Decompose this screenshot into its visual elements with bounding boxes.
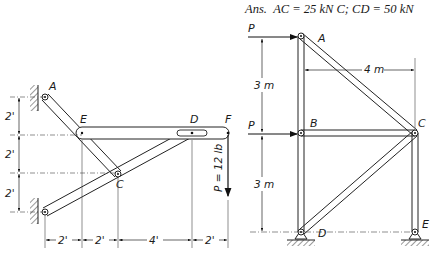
hdim-2: 2'	[95, 234, 105, 246]
load-label-P-mid: P	[248, 119, 255, 132]
joint-E-right: E	[422, 218, 429, 231]
hdim-3: 4'	[149, 234, 159, 246]
joint-C-left: C	[116, 178, 124, 191]
wall-support-bottom	[30, 198, 38, 224]
member-CE	[412, 133, 418, 232]
member-AC-right	[300, 33, 417, 135]
joint-D-left: D	[190, 113, 198, 126]
left-frame: P = 12 lb A E D F C 2' 2' 2'	[5, 80, 232, 248]
right-truss: P P 3 m 3 m 4 m A B C D E	[248, 22, 429, 246]
vdim-3: 2'	[5, 187, 15, 199]
joint-C-right: C	[418, 117, 426, 130]
load-label: P = 12 lb	[212, 144, 224, 192]
hdim-4: 2'	[205, 234, 215, 246]
joint-A-left: A	[48, 80, 57, 93]
pin-support-D	[287, 229, 315, 246]
joint-A-right: A	[317, 32, 326, 45]
pin-support-E	[401, 229, 429, 246]
member-CD	[300, 131, 417, 234]
truss-diagrams: P = 12 lb A E D F C 2' 2' 2'	[0, 0, 440, 265]
load-label-P-top: P	[248, 22, 255, 35]
joint-E: E	[80, 113, 87, 126]
vdim-3m-bottom: 3 m	[254, 178, 274, 190]
vdim-3m-top: 3 m	[254, 79, 274, 91]
joint-F: F	[225, 113, 232, 126]
hdim-1: 2'	[58, 234, 68, 246]
wall-support-top	[30, 85, 38, 111]
hdim-4m: 4 m	[364, 63, 384, 75]
member-BC	[301, 130, 415, 136]
vdim-2: 2'	[5, 148, 15, 160]
vdim-1: 2'	[5, 110, 15, 122]
member-EF	[76, 127, 229, 139]
joint-D-right: D	[318, 227, 326, 240]
joint-B: B	[310, 117, 318, 130]
